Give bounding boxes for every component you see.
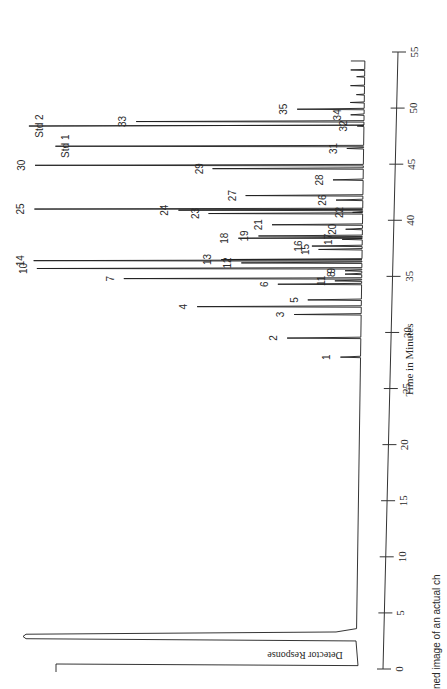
tick-label: 10 <box>396 551 408 563</box>
peak-label: Std 1 <box>60 134 71 158</box>
peak-label: 1 <box>321 354 332 360</box>
peak-label: 21 <box>253 219 264 231</box>
tick-label: 40 <box>404 214 416 226</box>
peak-label: 29 <box>194 163 205 175</box>
tick-label: 35 <box>403 270 415 282</box>
peak-label: 30 <box>16 159 27 171</box>
peak-label: 22 <box>334 206 345 218</box>
chromatogram-trace <box>23 61 365 672</box>
chromatogram-figure: 0510152025303540455055 12345611789101214… <box>0 0 447 689</box>
peak-label: 31 <box>328 142 339 154</box>
tick-label: 55 <box>408 46 420 58</box>
peak-label: 32 <box>338 120 349 132</box>
peak-label: 6 <box>259 281 270 287</box>
caption-fragment: ned image of an actual ch <box>431 574 442 689</box>
chromatogram-plot: 0510152025303540455055 12345611789101214… <box>0 0 447 689</box>
tick-label: 20 <box>398 439 410 451</box>
tick-label: 15 <box>397 495 409 507</box>
peak-labels: 1234561178910121413151617181920212322242… <box>15 103 350 360</box>
peak-label: 5 <box>289 297 300 303</box>
peak-label: 3 <box>275 311 286 317</box>
peak-label: 2 <box>268 335 279 341</box>
tick-label: 5 <box>394 610 406 616</box>
peak-label: 14 <box>15 255 26 267</box>
peak-label: 18 <box>219 232 230 244</box>
x-axis-label: Time in Minutes <box>403 324 415 397</box>
peak-label: 27 <box>227 190 238 202</box>
peak-label: 26 <box>317 194 328 206</box>
peak-label: 16 <box>293 240 304 252</box>
peak-label: 19 <box>239 230 250 242</box>
peak-label: 25 <box>15 203 26 215</box>
peak-label: 12 <box>222 257 233 269</box>
peak-label: 23 <box>190 208 201 220</box>
peak-label: 7 <box>105 275 116 281</box>
peak-label: 13 <box>202 254 213 266</box>
detector-trace <box>23 61 365 672</box>
peak-label: 24 <box>159 204 170 216</box>
peak-label: 20 <box>327 223 338 235</box>
y-axis-label: Detector Response <box>267 650 343 661</box>
tick-label: 0 <box>393 666 405 672</box>
peak-label: Std 2 <box>34 114 45 138</box>
peak-label: 35 <box>278 103 289 115</box>
tick-label: 50 <box>407 102 419 114</box>
peak-label: 33 <box>117 116 128 128</box>
time-axis-line <box>383 52 398 669</box>
peak-label: 28 <box>314 174 325 186</box>
peak-label: 34 <box>332 109 343 121</box>
peak-label: 4 <box>178 303 189 309</box>
tick-label: 45 <box>405 158 417 170</box>
peak-label: 9 <box>326 268 337 274</box>
